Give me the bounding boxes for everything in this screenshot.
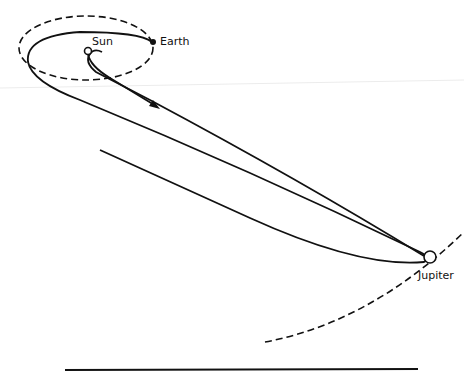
trajectory-diagram: Sun Earth Jupiter [0,0,464,377]
outer-trajectory [28,32,427,263]
jupiter-orbit [265,232,464,342]
earth-label: Earth [160,35,190,48]
sun-marker [85,48,92,55]
jupiter-marker [424,251,436,263]
bottom-rule [65,369,418,370]
jupiter-label: Jupiter [417,269,454,282]
faint-scan-line [0,80,464,88]
earth-marker [150,39,156,45]
sun-label: Sun [92,35,113,48]
